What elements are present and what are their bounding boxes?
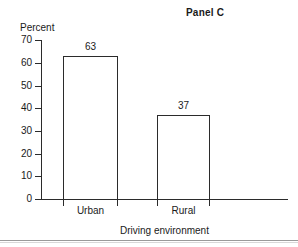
plot-area: 70 60 50 40 30 20 10 0 63 Urban 37 Rural bbox=[0, 0, 298, 247]
y-tick-label: 20 bbox=[4, 149, 32, 159]
y-tick-mark bbox=[35, 108, 41, 109]
x-tick-label-rural: Rural bbox=[151, 206, 216, 216]
bar-urban[interactable] bbox=[63, 56, 118, 200]
x-tick-label-urban: Urban bbox=[58, 206, 123, 216]
y-tick-label: 50 bbox=[4, 81, 32, 91]
y-tick-label: 40 bbox=[4, 103, 32, 113]
y-tick-mark bbox=[35, 63, 41, 64]
y-tick-mark bbox=[35, 40, 41, 41]
y-tick-label: 30 bbox=[4, 126, 32, 136]
y-tick-mark bbox=[35, 176, 41, 177]
y-tick-mark bbox=[35, 131, 41, 132]
y-tick-mark bbox=[35, 154, 41, 155]
y-tick-label: 60 bbox=[4, 58, 32, 68]
footer-divider bbox=[0, 240, 298, 241]
y-tick-mark bbox=[35, 86, 41, 87]
chart-figure: Panel C Percent 70 60 50 40 30 20 10 0 6… bbox=[0, 0, 298, 247]
y-tick-label: 0 bbox=[4, 194, 32, 204]
y-tick-label: 70 bbox=[4, 35, 32, 45]
x-axis-label: Driving environment bbox=[41, 225, 288, 236]
y-tick-label: 10 bbox=[4, 171, 32, 181]
bar-value-rural: 37 bbox=[157, 101, 210, 111]
y-tick-mark bbox=[35, 199, 41, 200]
y-axis-line bbox=[41, 40, 42, 200]
bar-rural[interactable] bbox=[157, 115, 210, 200]
bar-value-urban: 63 bbox=[63, 42, 118, 52]
footer-divider-shadow bbox=[0, 242, 298, 243]
